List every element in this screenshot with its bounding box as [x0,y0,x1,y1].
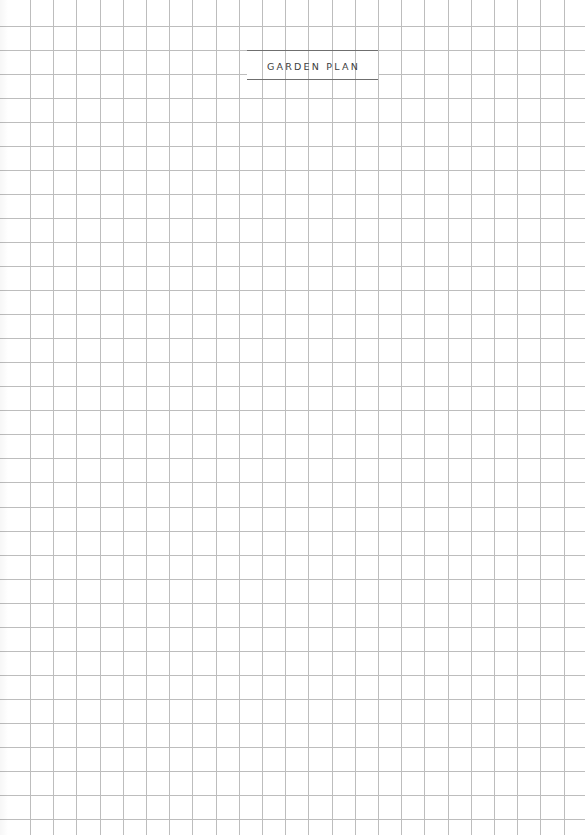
grid-lines [0,0,585,835]
grid-paper-page: GARDEN PLAN [0,0,585,835]
page-title: GARDEN PLAN [265,61,360,72]
title-box: GARDEN PLAN [247,50,378,80]
page-edge-shadow [0,0,8,835]
